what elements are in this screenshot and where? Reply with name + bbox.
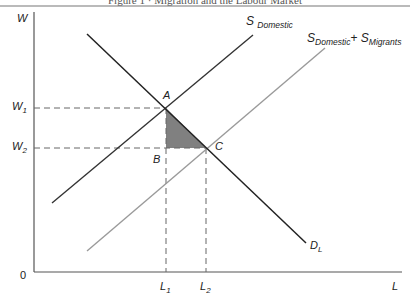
y-axis-label: W bbox=[17, 12, 27, 24]
supply-domestic-curve bbox=[52, 35, 253, 203]
supply-domestic-label: S Domestic bbox=[246, 14, 293, 30]
point-c-label: C bbox=[215, 140, 223, 152]
point-b-label: B bbox=[153, 153, 160, 165]
demand-curve bbox=[87, 34, 306, 243]
point-a-label: A bbox=[163, 89, 170, 101]
demand-label: DL bbox=[310, 239, 322, 254]
l2-label: L2 bbox=[200, 280, 211, 295]
origin-label: 0 bbox=[20, 269, 26, 281]
supply-total-label: SDomestic+ SMigrants bbox=[307, 31, 401, 47]
w2-label: W2 bbox=[12, 140, 27, 155]
x-axis-label: L bbox=[392, 280, 398, 292]
l1-label: L1 bbox=[160, 280, 171, 295]
w1-label: W1 bbox=[12, 100, 27, 115]
